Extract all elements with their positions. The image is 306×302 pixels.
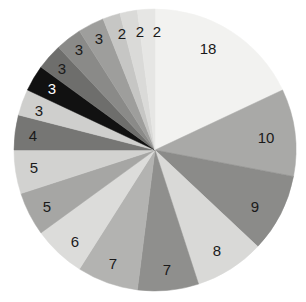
pie-slice-label: 7 xyxy=(109,255,117,272)
pie-slice-label: 2 xyxy=(136,23,144,40)
pie-slice-label: 4 xyxy=(29,127,37,144)
pie-chart-svg: 18109877655433333222 xyxy=(0,0,306,302)
pie-slice-label: 3 xyxy=(75,41,83,58)
pie-slice-label: 5 xyxy=(43,198,51,215)
pie-slice-label: 3 xyxy=(35,102,43,119)
pie-slice-label: 7 xyxy=(163,261,171,278)
pie-slice-label: 9 xyxy=(251,198,259,215)
pie-slice-label: 8 xyxy=(213,242,221,259)
pie-slice-label: 10 xyxy=(258,129,275,146)
pie-slice-label: 6 xyxy=(71,233,79,250)
pie-slice-label: 3 xyxy=(95,30,103,47)
pie-slice-label: 3 xyxy=(58,60,66,77)
pie-slice-label: 18 xyxy=(200,40,217,57)
pie-slices-group xyxy=(14,9,296,291)
pie-chart-figure: 18109877655433333222 xyxy=(0,0,306,302)
pie-slice-label: 2 xyxy=(153,23,161,40)
pie-slice-label: 3 xyxy=(48,80,56,97)
pie-slice-label: 2 xyxy=(118,25,126,42)
pie-slice-label: 5 xyxy=(30,159,38,176)
